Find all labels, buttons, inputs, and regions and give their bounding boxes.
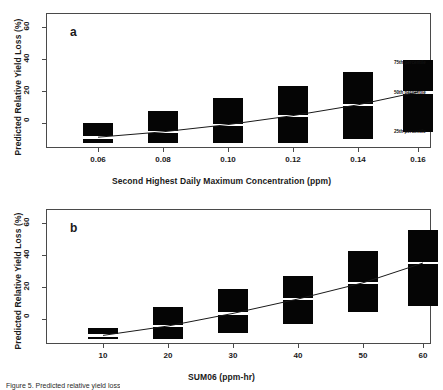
x-axis-title-a: Second Highest Daily Maximum Concentrati… — [0, 176, 443, 186]
x-tick-label-b-2: 20 — [148, 351, 188, 360]
x-axis-title-b: SUM06 (ppm-hr) — [0, 372, 443, 382]
x-tick-b-1 — [103, 344, 104, 348]
x-tick-label-a-5: 0.14 — [338, 155, 378, 164]
x-tick-label-a-2: 0.08 — [143, 155, 183, 164]
x-tick-b-4 — [298, 344, 299, 348]
x-tick-label-b-3: 30 — [213, 351, 253, 360]
x-tick-a-2 — [163, 148, 164, 152]
x-tick-label-a-3: 0.10 — [208, 155, 248, 164]
x-tick-a-5 — [358, 148, 359, 152]
x-tick-label-b-1: 10 — [83, 351, 123, 360]
x-tick-label-a-4: 0.12 — [273, 155, 313, 164]
chart-panel-b: Predicted Relative Yield Loss (%) 60 40 … — [0, 194, 443, 388]
median-trend-line-a — [0, 0, 443, 194]
annotation-25th-percentile-a: 25th percentile — [394, 129, 426, 134]
x-tick-b-5 — [363, 344, 364, 348]
annotation-75th-percentile-a: 75th percentile — [394, 60, 426, 65]
x-tick-label-a-6: 0.16 — [398, 155, 438, 164]
figure-caption: Figure 5. Predicted relative yield loss — [6, 382, 120, 390]
x-tick-b-2 — [168, 344, 169, 348]
chart-panel-a: Predicted Relative Yield Loss (%) 60 40 … — [0, 0, 443, 194]
x-tick-a-6 — [418, 148, 419, 152]
x-tick-label-b-4: 40 — [278, 351, 318, 360]
x-tick-b-3 — [233, 344, 234, 348]
x-tick-label-b-6: 60 — [403, 351, 443, 360]
annotation-50th-percentile-a: 50th percentile — [394, 90, 426, 95]
x-tick-b-6 — [423, 344, 424, 348]
x-tick-a-1 — [98, 148, 99, 152]
x-tick-a-3 — [228, 148, 229, 152]
x-tick-a-4 — [293, 148, 294, 152]
x-tick-label-a-1: 0.06 — [78, 155, 118, 164]
x-tick-label-b-5: 50 — [343, 351, 383, 360]
